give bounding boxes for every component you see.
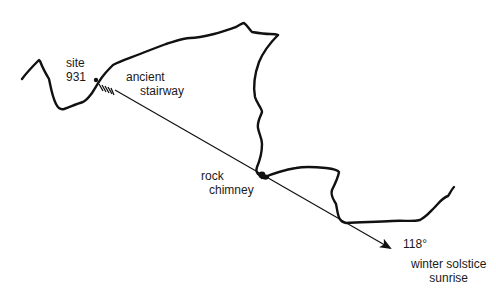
chimney-label-line1: rock	[201, 169, 254, 183]
chimney-label: rock chimney	[201, 169, 254, 197]
ridge-outline-center	[254, 35, 278, 178]
stairway-label: ancient stairway	[126, 70, 184, 98]
site-label: site 931	[66, 56, 86, 84]
target-label-line1: winter solstice	[411, 257, 486, 271]
stairway-label-line1: ancient	[126, 70, 184, 84]
site-label-line2: 931	[66, 70, 86, 84]
rock-chimney-marker-icon	[259, 172, 266, 179]
site-931-marker-icon	[94, 78, 98, 82]
stairway-label-line2: stairway	[126, 84, 184, 98]
bearing-label: 118°	[403, 237, 427, 251]
target-label-line2: sunrise	[411, 271, 486, 285]
alignment-diagram	[0, 0, 496, 301]
chimney-label-line2: chimney	[201, 183, 254, 197]
target-label: winter solstice sunrise	[411, 257, 486, 285]
stairway-hatch-icon	[99, 84, 114, 95]
site-label-line1: site	[66, 56, 86, 70]
ridge-outline-right	[262, 167, 454, 223]
